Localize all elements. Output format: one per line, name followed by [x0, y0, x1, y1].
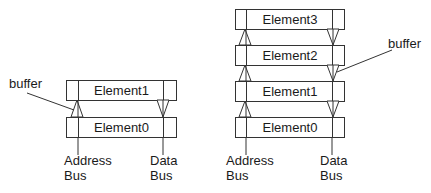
left-address-line1: Address	[64, 153, 112, 168]
up-buffer-triangle-icon	[239, 65, 251, 81]
left-data-bus-label: Data Bus	[150, 153, 177, 183]
element-label: Element0	[263, 120, 318, 135]
right-buffer-pointer-line	[337, 50, 392, 72]
right-address-line2: Bus	[226, 168, 274, 183]
up-buffer-triangle-icon	[239, 101, 251, 117]
right-buffer-label: buffer	[388, 36, 421, 51]
element-label: Element2	[263, 48, 318, 63]
up-buffer-triangle-icon	[71, 100, 83, 117]
right-address-line1: Address	[226, 153, 274, 168]
left-element-box: Element0	[67, 117, 177, 138]
element-label: Element0	[94, 120, 149, 135]
right-data-bus-label: Data Bus	[320, 153, 347, 183]
element-label: Element3	[263, 12, 318, 27]
up-buffer-triangle-icon	[239, 29, 251, 45]
right-data-line1: Data	[320, 153, 347, 168]
right-data-line2: Bus	[320, 168, 347, 183]
left-buffer-label: buffer	[9, 76, 42, 91]
element-label: Element1	[94, 83, 149, 98]
right-element-box: Element2	[236, 45, 345, 66]
right-element-box: Element0	[236, 117, 345, 138]
right-element-box: Element1	[236, 81, 345, 102]
right-stack: Element3Element2Element1Element0	[236, 9, 393, 155]
left-data-line2: Bus	[150, 168, 177, 183]
left-data-line1: Data	[150, 153, 177, 168]
right-element-box: Element3	[236, 9, 345, 30]
left-address-bus-label: Address Bus	[64, 153, 112, 183]
left-element-box: Element1	[67, 80, 177, 101]
left-address-line2: Bus	[64, 168, 112, 183]
right-address-bus-label: Address Bus	[226, 153, 274, 183]
left-stack: Element1Element0	[27, 80, 177, 155]
element-label: Element1	[263, 84, 318, 99]
